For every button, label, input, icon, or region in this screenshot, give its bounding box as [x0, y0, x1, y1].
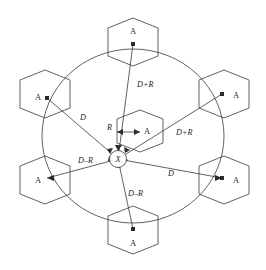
dot-bottom	[131, 227, 135, 231]
label-d-plus-r-top: D+R	[136, 80, 153, 89]
hex-label-lower-right: A	[233, 175, 240, 185]
radius-label: R	[106, 123, 112, 132]
arrow-lower-right	[215, 175, 222, 181]
dot-top	[131, 42, 135, 46]
diagram-canvas: X R A D+R D+R D D D–R D–R A A A A A A	[0, 0, 266, 270]
label-d-minus-r-bottom: D–R	[127, 189, 143, 198]
center-cell-label: A	[144, 126, 151, 136]
line-d-plus-r-right	[118, 94, 222, 159]
hex-label-bottom: A	[130, 238, 137, 248]
hex-label-lower-left: A	[35, 175, 42, 185]
label-d-minus-r-left: D–R	[77, 156, 93, 165]
radius-arrow-right	[134, 129, 140, 135]
arrow-lower-left	[47, 175, 54, 181]
label-d-right: D	[167, 169, 174, 178]
hex-label-top: A	[130, 26, 137, 36]
radius-arrow-left	[117, 129, 123, 135]
hex-lower-left	[20, 156, 70, 204]
label-d-plus-r-right: D+R	[175, 128, 192, 137]
geometry-figure: X R A D+R D+R D D D–R D–R A A A A A A	[0, 0, 266, 270]
node-x-label: X	[114, 155, 121, 164]
hex-label-upper-right: A	[233, 90, 240, 100]
dot-upper-right	[220, 92, 224, 96]
dot-upper-left	[45, 96, 49, 100]
hex-label-upper-left: A	[35, 92, 42, 102]
label-d-left: D	[79, 113, 86, 122]
